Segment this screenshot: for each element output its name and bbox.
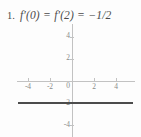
problem-statement: 1. f′(0) = f′(2) = −1/2	[7, 6, 141, 24]
x-label-2: 2	[87, 83, 101, 91]
y-label-4: 4	[58, 32, 70, 40]
graph-figure: 1. f′(0) = f′(2) = −1/2 -4 -2 0 2 4 4 2 …	[0, 0, 141, 137]
derivative-expression-1: f′(0)	[20, 9, 40, 21]
x-label-4: 4	[109, 83, 123, 91]
x-label-minus2: -2	[43, 83, 57, 91]
problem-number: 1.	[7, 10, 15, 21]
equals-sign-1: =	[44, 9, 51, 21]
y-label-2: 2	[58, 54, 70, 62]
coordinate-plot: -4 -2 0 2 4 4 2 -2 -4	[0, 24, 141, 137]
x-label-minus4: -4	[21, 83, 35, 91]
y-label-minus4: -4	[58, 121, 70, 129]
x-label-origin: 0	[60, 82, 70, 90]
derivative-expression-2: f′(2)	[54, 9, 74, 21]
y-tick-minus4	[70, 125, 74, 126]
y-axis-line	[72, 24, 73, 137]
derivative-value: −1/2	[88, 9, 111, 21]
function-curve	[18, 102, 133, 104]
equals-sign-2: =	[78, 9, 85, 21]
y-tick-2	[70, 59, 74, 60]
y-tick-4	[70, 37, 74, 38]
